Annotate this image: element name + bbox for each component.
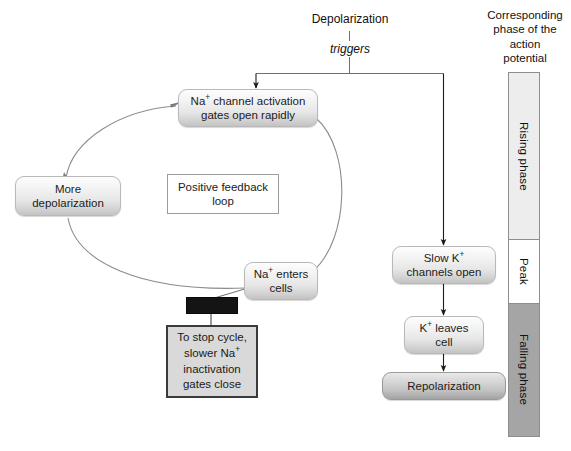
phase-segment-peak: Peak: [509, 240, 539, 303]
phase-segment-falling: Falling phase: [509, 304, 539, 436]
k-leaves-cell-line1: K+ leaves: [405, 321, 483, 335]
positive-feedback-line2: loop: [168, 194, 278, 208]
stop-cycle-line1: To stop cycle,: [168, 330, 256, 346]
slow-k-channels-line1: Slow K+: [393, 251, 495, 265]
stop-cycle-line2: slower Na+: [168, 346, 256, 362]
na-channel-activation-line2: gates open rapidly: [179, 108, 317, 122]
phase-segment-rising-label: Rising phase: [518, 122, 530, 191]
phase-caption-line2: phase of the: [482, 22, 568, 36]
node-stop-cycle: To stop cycle, slower Na+ inactivation g…: [166, 325, 258, 398]
phase-segment-falling-label: Falling phase: [518, 334, 530, 405]
node-positive-feedback-loop: Positive feedback loop: [167, 174, 279, 214]
arc-na-channel-to-more-depolarization: [66, 106, 176, 178]
phase-caption-line3: action: [482, 37, 568, 51]
diagram-canvas: Depolarization triggers Na+ channel acti…: [0, 0, 571, 451]
node-na-enters-cells: Na+ enters cells: [244, 262, 318, 300]
na-enters-cells-line1: Na+ enters: [245, 267, 317, 281]
more-depolarization-line2: depolarization: [16, 196, 120, 210]
positive-feedback-line1: Positive feedback: [168, 180, 278, 194]
depolarization-label: Depolarization: [295, 12, 405, 26]
slow-k-channels-line2: channels open: [393, 265, 495, 279]
arc-more-depolarization-to-na-enters: [68, 218, 246, 288]
node-repolarization: Repolarization: [382, 372, 506, 400]
triggers-label: triggers: [310, 42, 390, 56]
k-leaves-cell-line2: cell: [405, 335, 483, 349]
phase-segment-peak-label: Peak: [518, 258, 530, 285]
more-depolarization-line1: More: [16, 182, 120, 196]
phase-segment-rising: Rising phase: [509, 73, 539, 239]
phase-caption-line1: Corresponding: [482, 8, 568, 22]
node-k-leaves-cell: K+ leaves cell: [404, 316, 484, 354]
node-slow-k-channels-open: Slow K+ channels open: [392, 246, 496, 284]
node-na-channel-activation: Na+ channel activation gates open rapidl…: [178, 89, 318, 127]
redacted-label-bar: [186, 297, 238, 314]
na-channel-activation-line1: Na+ channel activation: [179, 94, 317, 108]
phase-caption-line4: potential: [482, 51, 568, 65]
stop-cycle-line4: gates close: [168, 377, 256, 393]
stop-cycle-line3: inactivation: [168, 362, 256, 378]
phase-column: Rising phase Peak Falling phase: [508, 72, 540, 437]
node-more-depolarization: More depolarization: [15, 176, 121, 216]
phase-column-caption: Corresponding phase of the action potent…: [482, 8, 568, 66]
repolarization-label: Repolarization: [383, 379, 505, 393]
na-enters-cells-line2: cells: [245, 281, 317, 295]
arc-na-enters-to-na-channel: [312, 118, 342, 272]
